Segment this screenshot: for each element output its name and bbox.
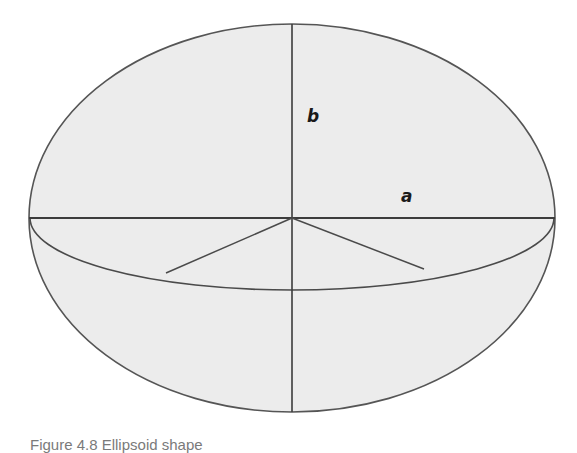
figure-caption: Figure 4.8 Ellipsoid shape: [30, 437, 203, 452]
semi-minor-axis-label: b: [307, 108, 319, 125]
semi-major-axis-label: a: [401, 188, 412, 205]
